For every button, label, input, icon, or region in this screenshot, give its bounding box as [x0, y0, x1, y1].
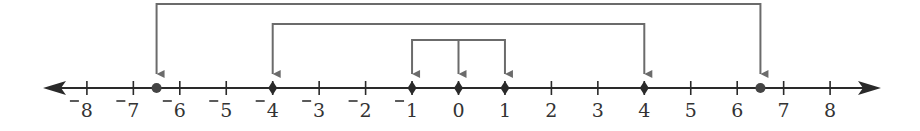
point-diamond [408, 81, 417, 95]
tick-label: 6 [731, 99, 743, 121]
tick-label: 7 [778, 99, 790, 121]
tick-label: 5 [685, 99, 697, 121]
tick-label: 3 [592, 99, 604, 121]
tick-label: 5 [220, 99, 232, 121]
point-diamond [640, 81, 649, 95]
tick-label: 1 [499, 99, 511, 121]
point-diamond [268, 81, 277, 95]
tick-label: 6 [174, 99, 186, 121]
number-line-diagram: 87654321012345678 [0, 0, 920, 131]
bracket-inner [412, 39, 505, 74]
tick-label: 8 [824, 99, 836, 121]
brackets-group [157, 3, 761, 74]
tick-label: 4 [267, 99, 279, 121]
point-diamond [454, 81, 463, 95]
tick-label: 4 [638, 99, 650, 121]
point-dot [152, 83, 162, 93]
tick-label: 2 [545, 99, 557, 121]
point-dot [755, 83, 765, 93]
tick-label: 1 [406, 99, 418, 121]
tick-label: 3 [313, 99, 325, 121]
tick-label: 2 [360, 99, 372, 121]
tick-label: 0 [452, 99, 464, 121]
tick-label: 7 [127, 99, 139, 121]
tick-labels-group: 87654321012345678 [70, 99, 836, 121]
tick-label: 8 [81, 99, 93, 121]
point-diamond [500, 81, 509, 95]
number-line-svg: 87654321012345678 [0, 0, 920, 131]
